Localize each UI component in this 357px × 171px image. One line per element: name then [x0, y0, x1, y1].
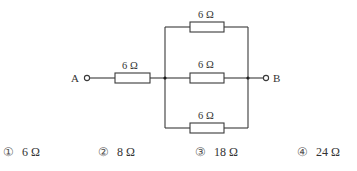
- resistor-bot-label: 6 Ω: [198, 110, 214, 121]
- choice-3[interactable]: ③18 Ω: [195, 145, 238, 160]
- choice-4-number: ④: [297, 145, 308, 160]
- resistor-mid: [190, 73, 224, 83]
- choice-1-value: 6 Ω: [22, 145, 40, 159]
- answer-choices: ①6 Ω ②8 Ω ③18 Ω ④24 Ω: [0, 145, 357, 165]
- choice-2-value: 8 Ω: [117, 145, 135, 159]
- choice-3-value: 18 Ω: [214, 145, 238, 159]
- terminal-a: [84, 75, 89, 80]
- choice-4-value: 24 Ω: [316, 145, 340, 159]
- terminal-a-label: A: [71, 72, 79, 84]
- terminal-b-label: B: [273, 72, 280, 84]
- resistor-top-label: 6 Ω: [198, 9, 214, 20]
- resistor-top: [190, 22, 224, 32]
- resistor-bot: [190, 123, 224, 133]
- junction-left: [163, 76, 166, 79]
- choice-4[interactable]: ④24 Ω: [297, 145, 340, 160]
- choice-2[interactable]: ②8 Ω: [98, 145, 135, 160]
- terminal-b: [263, 75, 268, 80]
- choice-2-number: ②: [98, 145, 109, 160]
- choice-1-number: ①: [3, 145, 14, 160]
- choice-3-number: ③: [195, 145, 206, 160]
- choice-1[interactable]: ①6 Ω: [3, 145, 40, 160]
- resistor-mid-label: 6 Ω: [198, 59, 214, 70]
- resistor-series: [115, 73, 150, 83]
- resistor-series-label: 6 Ω: [122, 60, 138, 71]
